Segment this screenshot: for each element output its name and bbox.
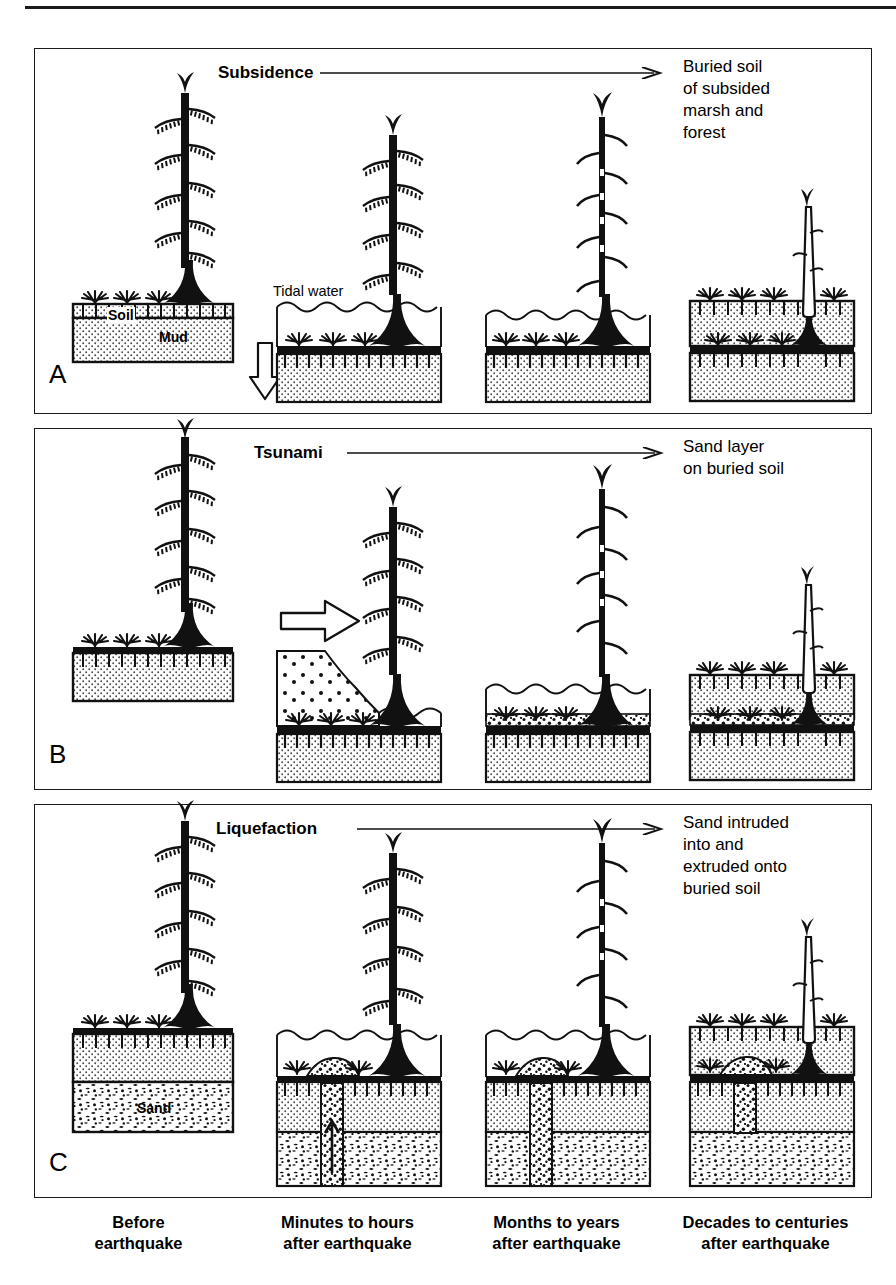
panel-liquefaction: Liquefaction Sand intruded into and extr… [34,804,872,1198]
panel-c-stage-2 [263,813,463,1193]
panel-a-stage-1: Soil Mud [55,57,255,401]
timeline-col-3: Months to years after earthquake [452,1212,661,1254]
panel-b-stage-3 [472,437,672,777]
panel-a-label-tidal-water: Tidal water [273,283,343,299]
panel-b-stage-1 [55,437,255,777]
panel-c-stage-4 [676,813,876,1193]
timeline-labels: Before earthquake Minutes to hours after… [34,1212,870,1254]
panel-a-label-mud: Mud [159,329,188,345]
panel-b-stage-2 [263,437,473,777]
figure-root: Subsidence Buried soil of subsided marsh… [0,0,896,1285]
panel-subsidence: Subsidence Buried soil of subsided marsh… [34,48,872,414]
timeline-col-4: Decades to centuries after earthquake [661,1212,870,1254]
panel-a-stage-2: Tidal water [263,57,463,401]
panel-c-label-sand: Sand [137,1100,171,1116]
panel-a-stage-3 [472,57,672,401]
timeline-col-1: Before earthquake [34,1212,243,1254]
panel-a-stage-4 [676,57,876,401]
panel-c-stage-3 [472,813,672,1193]
panel-c-stage-1: Sand [55,813,255,1193]
panel-tsunami: Tsunami Sand layer on buried soil B [34,428,872,790]
timeline-col-2: Minutes to hours after earthquake [243,1212,452,1254]
panel-a-label-soil: Soil [107,307,135,323]
top-rule [25,6,896,9]
panel-b-stage-4 [676,437,876,777]
